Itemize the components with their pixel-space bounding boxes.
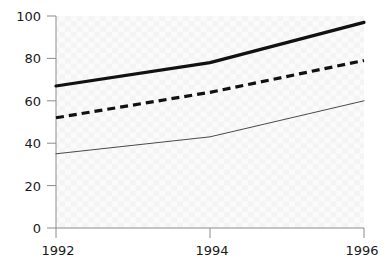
y-tick-label-0: 0	[33, 221, 41, 236]
x-tick-label-1994: 1994	[195, 243, 228, 258]
chart-canvas: 100 80 60 40 20 0 1992 1994 1996	[0, 0, 387, 265]
y-tick-label-80: 80	[24, 51, 41, 66]
plot-background	[56, 16, 364, 228]
x-axis-tick-labels: 1992 1994 1996	[41, 243, 378, 258]
x-tick-label-1992: 1992	[41, 243, 74, 258]
y-axis-tick-labels: 100 80 60 40 20 0	[16, 9, 41, 236]
x-tick-label-1996: 1996	[345, 243, 378, 258]
y-tick-label-20: 20	[24, 179, 41, 194]
y-axis-ticks	[47, 16, 56, 228]
y-tick-label-100: 100	[16, 9, 41, 24]
x-axis-ticks	[56, 228, 364, 238]
line-chart: 100 80 60 40 20 0 1992 1994 1996	[0, 0, 387, 265]
y-tick-label-40: 40	[24, 136, 41, 151]
y-tick-label-60: 60	[24, 94, 41, 109]
